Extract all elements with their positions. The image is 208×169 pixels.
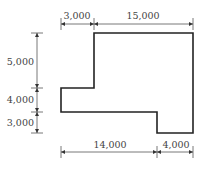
top-dim-label-2: 15,000 xyxy=(126,10,159,21)
left-dim-label-1: 5,000 xyxy=(7,56,34,67)
top-dim-label-1: 3,000 xyxy=(63,10,90,21)
building-outline xyxy=(61,33,193,133)
bottom-dim-label-1: 14,000 xyxy=(93,139,126,150)
dimension-drawing: 3,000 15,000 5,000 4,000 3,000 14,000 4,… xyxy=(0,0,208,169)
bottom-dim-label-2: 4,000 xyxy=(162,139,189,150)
left-dim-label-2: 4,000 xyxy=(7,94,34,105)
left-dim-label-3: 3,000 xyxy=(7,117,34,128)
